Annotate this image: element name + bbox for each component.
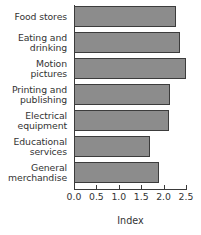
x-axis-line	[74, 189, 187, 190]
category-label-line: Food stores	[0, 12, 67, 22]
x-tick	[74, 185, 75, 189]
bar	[74, 58, 186, 79]
category-label-line: drinking	[0, 43, 67, 53]
bar	[74, 6, 176, 27]
bar	[74, 110, 169, 131]
category-label: Printing andpublishing	[0, 85, 67, 106]
x-tick	[164, 185, 165, 189]
category-label-line: equipment	[0, 121, 67, 131]
x-tick	[119, 185, 120, 189]
category-label: Motionpictures	[0, 59, 67, 80]
bar-chart: Food storesEating anddrinkingMotionpictu…	[0, 0, 201, 235]
category-label-line: publishing	[0, 95, 67, 105]
bar	[74, 84, 170, 105]
bar	[74, 136, 150, 157]
category-label-line: merchandise	[0, 173, 67, 183]
x-tick	[186, 185, 187, 189]
category-label: Educationalservices	[0, 137, 67, 158]
bar	[74, 162, 159, 183]
x-tick-label: 2.5	[173, 191, 199, 202]
plot-area	[74, 5, 186, 189]
category-label: Electricalequipment	[0, 111, 67, 132]
category-label: Food stores	[0, 12, 67, 22]
category-label-line: services	[0, 147, 67, 157]
x-tick	[141, 185, 142, 189]
category-label: Eating anddrinking	[0, 33, 67, 54]
category-axis-labels: Food storesEating anddrinkingMotionpictu…	[0, 6, 71, 188]
category-label: Generalmerchandise	[0, 163, 67, 184]
category-label-line: pictures	[0, 69, 67, 79]
bar	[74, 32, 180, 53]
x-tick	[96, 185, 97, 189]
x-axis-title: Index	[60, 215, 201, 226]
